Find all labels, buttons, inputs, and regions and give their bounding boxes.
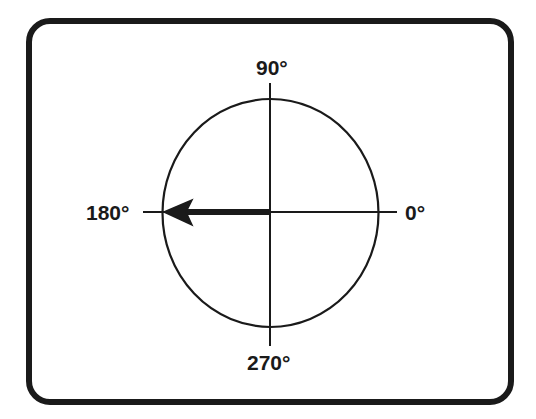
label-270-degrees: 270° — [247, 352, 290, 373]
arrow-shaft — [186, 209, 270, 215]
label-180-degrees: 180° — [86, 202, 129, 223]
label-0-degrees: 0° — [405, 202, 425, 223]
label-90-degrees: 90° — [256, 57, 288, 78]
